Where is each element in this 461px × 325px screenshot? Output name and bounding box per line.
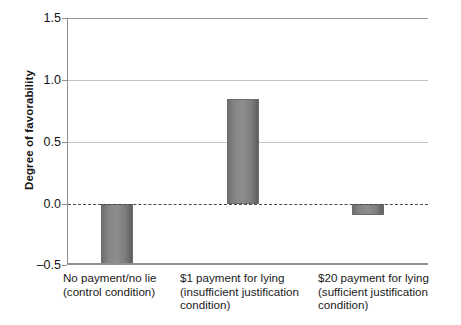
bar-chart: Degree of favorability 1.5 1.0 0.5 0.0 –… [0,0,461,325]
x-label-line-2: (sufficient justification [318,285,453,299]
x-label-line-1: No payment/no lie [63,271,183,285]
x-label-line-1: $20 payment for lying [318,271,453,285]
x-axis-labels: No payment/no lie (control condition) $1… [0,271,461,325]
zero-reference-line [68,204,428,205]
x-label-line-2: (control condition) [63,285,183,299]
y-tick-label-1.0: 1.0 [20,73,61,87]
x-label-sufficient-justification: $20 payment for lying (sufficient justif… [318,271,453,312]
bar-no-payment-no-lie [101,204,133,265]
y-tick-label-1.5: 1.5 [20,11,61,25]
x-label-control-condition: No payment/no lie (control condition) [63,271,183,298]
bar-1-dollar-payment [227,99,259,204]
y-tick-label-0.5: 0.5 [20,135,61,149]
x-label-line-3: condition) [180,298,310,312]
bar-20-dollar-payment [352,204,384,215]
plot-area [67,18,428,265]
x-label-line-2: (insufficient justification [180,285,310,299]
x-axis-line [68,263,428,265]
x-label-line-1: $1 payment for lying [180,271,310,285]
y-tick-label-minus-0.5: –0.5 [14,258,61,272]
gridline-1.0 [68,80,428,81]
x-label-insufficient-justification: $1 payment for lying (insufficient justi… [180,271,310,312]
y-tick-label-0.0: 0.0 [20,197,61,211]
gridline-1.5 [68,18,428,19]
y-axis-title: Degree of favorability [23,45,35,215]
y-tick-mark-minus-0.5 [62,265,67,266]
x-label-line-3: condition) [318,298,453,312]
